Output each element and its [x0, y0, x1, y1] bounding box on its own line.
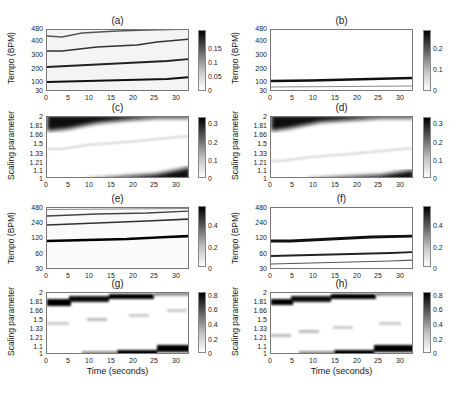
panel-d-ytick: 2: [239, 113, 267, 120]
panel-b-cbtick: 0.1: [433, 66, 443, 73]
panel-e-ytick: 480: [15, 204, 43, 211]
panel-d-colorbar: [423, 117, 431, 178]
panel-e-cbtick: 0.4: [208, 222, 218, 229]
panel-e-ytick: 30: [15, 265, 43, 272]
panel-d-cbtick: 0: [433, 175, 437, 182]
panel-g-cbtick: 0.2: [208, 336, 218, 343]
panel-d-xtick: 5: [284, 181, 300, 188]
panel-f-heatmap: [271, 208, 413, 269]
panel-d-cbtick: 0.1: [433, 157, 443, 164]
panel-b-xtick: 5: [284, 94, 300, 101]
panel-g-ytick: 1.81: [15, 298, 43, 305]
panel-d-ytick: 1.5: [239, 140, 267, 147]
panel-g-colorbar: [198, 292, 206, 353]
panel-f-colorbar: [423, 206, 431, 267]
panel-b-ytick: 300: [239, 51, 267, 58]
panel-d-ytick: 1.21: [239, 159, 267, 166]
panel-a-xtick: 30: [168, 94, 184, 101]
panel-d-xtick: 20: [349, 181, 365, 188]
panel-g-cbtick: 0.6: [208, 306, 218, 313]
panel-b-xtick: 25: [370, 94, 386, 101]
panel-b-xtick: 15: [327, 94, 343, 101]
panel-b-ytick: 480: [239, 25, 267, 32]
panel-g-xtick: 10: [81, 357, 97, 364]
panel-b-plot: [270, 29, 413, 91]
panel-d-heatmap: [271, 117, 413, 178]
panel-g-ytick: 1: [15, 350, 43, 357]
panel-c-ytick: 1.5: [15, 140, 43, 147]
panel-h-xtick: 10: [305, 357, 321, 364]
panel-h-ytick: 1.66: [239, 307, 267, 314]
panel-g-ytick: 1.5: [15, 316, 43, 323]
panel-f-cbtick: 0: [433, 265, 437, 272]
panel-g-xtick: 15: [103, 357, 119, 364]
panel-g-ytick: 1.21: [15, 334, 43, 341]
panel-e-ytick: 240: [15, 219, 43, 226]
panel-h-cbtick: 0.2: [433, 336, 443, 343]
panel-c-ytick: 1.21: [15, 159, 43, 166]
panel-b-ytick: 200: [239, 65, 267, 72]
panel-e-colorbar: [198, 206, 206, 267]
panel-b-colorbar: [423, 30, 431, 91]
panel-a-cbtick: 0: [208, 87, 212, 94]
panel-d-ytick: 1.33: [239, 150, 267, 157]
panel-h-ytick: 1.33: [239, 325, 267, 332]
panel-b-heatmap: [271, 30, 413, 91]
panel-h-xlabel: Time (seconds): [270, 366, 413, 376]
panel-h-ytick: 1.5: [239, 316, 267, 323]
panel-h-cbtick: 0.8: [433, 292, 443, 299]
panel-h-cbtick: 0.6: [433, 306, 443, 313]
panel-b-xtick: 30: [392, 94, 408, 101]
panel-h-cbtick: 0.4: [433, 321, 443, 328]
panel-d-xtick: 10: [305, 181, 321, 188]
panel-h-xtick: 5: [284, 357, 300, 364]
panel-h-title: (h): [270, 278, 413, 289]
panel-b-xtick: 10: [305, 94, 321, 101]
panel-g-ytick: 2: [15, 289, 43, 296]
panel-h-ytick: 1: [239, 350, 267, 357]
panel-c-cbtick: 0.2: [208, 139, 218, 146]
panel-c-title: (c): [46, 102, 189, 113]
panel-g-xtick: 5: [60, 357, 76, 364]
panel-f-cbtick: 0.2: [433, 244, 443, 251]
panel-a-ytick: 480: [15, 25, 43, 32]
panel-g-xtick: 25: [146, 357, 162, 364]
panel-c-cbtick: 0.3: [208, 120, 218, 127]
panel-d-title: (d): [270, 102, 413, 113]
panel-b-xtick: 0: [262, 94, 278, 101]
panel-f-ytick: 120: [239, 234, 267, 241]
panel-a-cbtick: 0.15: [208, 45, 222, 52]
panel-a-xtick: 10: [81, 94, 97, 101]
panel-b-cbtick: 0.2: [433, 45, 443, 52]
panel-g-xtick: 0: [38, 357, 54, 364]
panel-h-xtick: 30: [392, 357, 408, 364]
panel-c-ytick: 2: [15, 113, 43, 120]
panel-h-ytick: 2: [239, 289, 267, 296]
panel-h-xtick: 25: [370, 357, 386, 364]
panel-c-cbtick: 0: [208, 175, 212, 182]
panel-g-plot: [46, 292, 189, 354]
panel-a-ytick: 100: [15, 78, 43, 85]
panel-a-ytick: 30: [15, 87, 43, 94]
panel-e-cbtick: 0: [208, 265, 212, 272]
panel-b-ytick: 400: [239, 37, 267, 44]
panel-d-cbtick: 0.2: [433, 139, 443, 146]
panel-d-ytick: 1.81: [239, 122, 267, 129]
panel-b-ytick: 30: [239, 87, 267, 94]
panel-c-cbtick: 0.1: [208, 157, 218, 164]
panel-g-ytick: 1.66: [15, 307, 43, 314]
panel-a-ytick: 400: [15, 37, 43, 44]
panel-h-plot: [270, 292, 413, 354]
panel-a-plot: [46, 29, 189, 91]
panel-f-cbtick: 0.4: [433, 222, 443, 229]
panel-e-plot: [46, 207, 189, 269]
panel-g-xlabel: Time (seconds): [46, 366, 189, 376]
panel-a-cbtick: 0.1: [208, 59, 218, 66]
panel-d-ytick: 1.66: [239, 131, 267, 138]
panel-a-heatmap: [47, 30, 189, 91]
panel-a-xtick: 25: [146, 94, 162, 101]
panel-h-xtick: 0: [262, 357, 278, 364]
panel-h-heatmap: [271, 293, 413, 354]
panel-b-cbtick: 0: [433, 87, 437, 94]
panel-a-xtick: 15: [103, 94, 119, 101]
